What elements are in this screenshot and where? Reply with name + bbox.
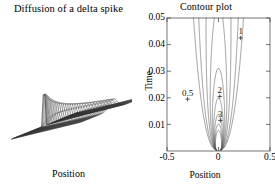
- figure-root: Diffusion of a delta spike Position Cont…: [0, 0, 275, 195]
- contour-label-0.5: 0.5: [182, 88, 194, 98]
- contour-label-3: 3: [218, 109, 223, 119]
- contour-plot-canvas: 0.5123: [137, 0, 275, 165]
- surface-panel: Diffusion of a delta spike Position: [0, 0, 137, 195]
- surface-mesh-svg: [8, 22, 132, 162]
- contour-label-2: 2: [217, 85, 222, 95]
- contour-xaxis-label: Position: [141, 170, 269, 180]
- contour-label-1: 1: [238, 26, 243, 36]
- surface-xaxis-label: Position: [0, 168, 137, 179]
- surface-plot-canvas: [8, 22, 132, 162]
- surface-plot-title: Diffusion of a delta spike: [0, 3, 137, 14]
- contour-svg: 0.5123: [137, 0, 275, 165]
- contour-panel: Contour plot Time 0.05 0.04 0.03 0.02 0.…: [137, 0, 275, 195]
